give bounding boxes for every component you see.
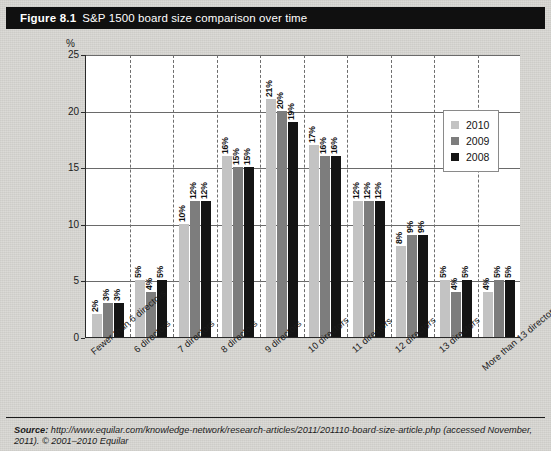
bar-rect [320,156,330,337]
bar-group: 10%12%12% [173,201,217,337]
bar[interactable]: 21% [266,99,276,337]
source-label: Source: [14,425,48,435]
y-tick-label: 25 [55,49,79,60]
bar-value-label: 5% [155,266,165,278]
legend-item-2009[interactable]: 2009 [451,133,489,149]
y-tick-mark [81,55,85,56]
bar[interactable]: 16% [331,156,341,337]
bar-rect [505,280,515,337]
bar-rect [244,167,254,337]
bar-value-label: 4% [481,278,491,290]
y-axis-unit-label: % [66,38,75,49]
bar-value-label: 15% [231,149,241,166]
source-note-line2: 2011). © 2001–2010 Equilar [14,436,128,446]
bar-group: 4%5%5% [478,280,522,337]
bar-rect [396,246,406,337]
y-tick-label: 10 [55,219,79,230]
bar-group: 12%12%12% [347,201,391,337]
bar[interactable]: 4% [483,292,493,337]
bar[interactable]: 5% [505,280,515,337]
bar-value-label: 3% [101,289,111,301]
bar-value-label: 9% [405,221,415,233]
bar-rect [233,167,243,337]
figure-title-bar: Figure 8.1 S&P 1500 board size compariso… [6,7,545,29]
figure-number: Figure 8.1 [20,12,76,24]
bar-value-label: 21% [264,81,274,98]
bar-rect [353,201,363,337]
x-axis-labels: Fewer than 6 directors6 directors7 direc… [0,343,551,423]
bar-group: 17%16%16% [304,145,348,337]
bar[interactable]: 12% [353,201,363,337]
bar-rect [277,111,287,337]
y-tick-label: 5 [55,275,79,286]
y-tick-label: 20 [55,106,79,117]
legend-item-2008[interactable]: 2008 [451,149,489,165]
plot-area: 2%3%3%5%4%5%10%12%12%16%15%15%21%20%19%1… [85,55,520,338]
bar-rect [92,314,102,337]
legend-label-2010: 2010 [466,119,489,131]
bar[interactable]: 12% [201,201,211,337]
bar-group: 21%20%19% [260,99,304,337]
bar[interactable]: 2% [92,314,102,337]
bar[interactable]: 16% [222,156,232,337]
y-tick-mark [81,112,85,113]
bar-value-label: 5% [133,266,143,278]
figure-container: Figure 8.1 S&P 1500 board size compariso… [0,0,551,451]
bar-value-label: 3% [112,289,122,301]
bar-rect [407,235,417,337]
bar[interactable]: 12% [190,201,200,337]
bar-value-label: 20% [275,92,285,109]
bar-value-label: 8% [394,232,404,244]
figure-title: S&P 1500 board size comparison over time [82,12,307,24]
bar-value-label: 19% [286,103,296,120]
bar-value-label: 9% [416,221,426,233]
bar-value-label: 4% [449,278,459,290]
bar-rect [331,156,341,337]
legend-swatch-2010 [451,121,459,129]
chart: % 2%3%3%5%4%5%10%12%12%16%15%15%21%20%19… [0,30,551,415]
bar-group: 16%15%15% [217,156,261,337]
bar-rect [483,292,493,337]
bar-value-label: 5% [460,266,470,278]
bar-value-label: 2% [90,300,100,312]
bar[interactable]: 5% [494,280,504,337]
bar-rect [494,280,504,337]
y-tick-label: 15 [55,162,79,173]
bar[interactable]: 17% [309,145,319,337]
bar[interactable]: 10% [179,224,189,337]
y-tick-mark [81,168,85,169]
chart-legend: 2010 2009 2008 [443,110,499,172]
source-divider [6,417,545,418]
bar-rect [309,145,319,337]
bar-value-label: 12% [362,183,372,200]
legend-item-2010[interactable]: 2010 [451,117,489,133]
bar-rect [190,201,200,337]
bar-value-label: 12% [199,183,209,200]
bar-rect [375,201,385,337]
bar[interactable]: 16% [320,156,330,337]
bar-value-label: 15% [242,149,252,166]
y-tick-mark [81,225,85,226]
bar-value-label: 16% [329,137,339,154]
bar-value-label: 16% [318,137,328,154]
bar-value-label: 5% [438,266,448,278]
y-tick-mark [81,338,85,339]
bar[interactable]: 20% [277,111,287,337]
bar-rect [179,224,189,337]
y-tick-mark [81,281,85,282]
bar[interactable]: 12% [364,201,374,337]
bar[interactable]: 12% [375,201,385,337]
legend-label-2008: 2008 [466,151,489,163]
legend-swatch-2009 [451,137,459,145]
bar[interactable]: 15% [233,167,243,337]
legend-label-2009: 2009 [466,135,489,147]
bar[interactable]: 15% [244,167,254,337]
bar-rect [364,201,374,337]
bar-value-label: 4% [144,278,154,290]
bar[interactable]: 8% [396,246,406,337]
y-tick-label: 0 [55,332,79,343]
bar[interactable]: 9% [407,235,417,337]
bar-rect [201,201,211,337]
bar[interactable]: 19% [288,122,298,337]
bar-rect [222,156,232,337]
